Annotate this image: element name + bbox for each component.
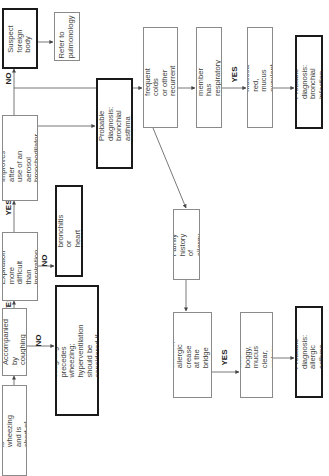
node-improves-after-bronchodilator: Improves after use of an aerosol broncho… xyxy=(2,115,38,201)
node-suspect-bronchitis-coughing: Suspect bronchitis if coughing precedes … xyxy=(55,285,99,416)
node-expiration-difficult: Expiration more difficult than inspirati… xyxy=(2,232,38,301)
node-text: Suspect bronchitis if coughing precedes … xyxy=(55,324,99,377)
node-history-frequent-colds: History of frequent colds or other recur… xyxy=(143,27,178,128)
node-text: Accompanied by coughing xyxy=(2,319,27,365)
node-text: History of frequent colds or other recur… xyxy=(143,60,178,96)
node-accompanied-by-coughing: Accompanied by coughing xyxy=(2,308,27,376)
node-text: "My child is wheezing and is short of br… xyxy=(2,414,27,446)
node-text: Suspect foreign body xyxy=(7,25,33,52)
node-text: Allergic shiners, allergic crease at the… xyxy=(173,342,212,369)
node-dx-allergic-asthma: Probable diagnosis: allergic asthma xyxy=(295,306,323,398)
edge-label-family-infection-yes: YES xyxy=(230,66,239,82)
edge-label-coughing-no: NO xyxy=(34,335,43,347)
edge-label-allergic-shiners-yes: YES xyxy=(220,349,229,365)
node-text: Family member has respiratory infection xyxy=(196,60,222,96)
node-text: Expiration more difficult than inspirati… xyxy=(2,249,38,284)
node-family-history-allergy: Family history of allergy xyxy=(173,209,200,280)
node-refer-to-pulmonology: Refer to pulmonology xyxy=(54,12,80,61)
node-text: Probable diagnosis: bronchial infection xyxy=(295,65,323,99)
node-mucosa-red: Mucosa red, mucus purulent xyxy=(247,27,273,128)
node-allergic-shiners: Allergic shiners, allergic crease at the… xyxy=(173,312,212,398)
node-dx-bronchial-infection: Probable diagnosis: bronchial infection xyxy=(295,35,323,129)
edge-label-expiration-no: NO xyxy=(40,255,49,267)
node-dx-bronchial-asthma: Probable diagnosis: bronchial asthma xyxy=(96,78,133,169)
node-text: Refer to pulmonology xyxy=(58,15,75,58)
edge-label-improves-no: NO xyxy=(4,73,13,85)
flowchart-diagram: YES NO YES NO NO YES YES "My child is wh… xyxy=(0,0,329,476)
node-mucosa-pale: Mucosa pale and boggy, mucus clear, wate… xyxy=(240,312,273,398)
node-start-complaint: "My child is wheezing and is short of br… xyxy=(2,385,27,476)
node-text: Family history of allergy xyxy=(173,233,200,255)
node-text: Improves after use of an aerosol broncho… xyxy=(2,134,38,182)
node-family-member-infection: Family member has respiratory infection xyxy=(196,27,222,128)
node-text: Mucosa pale and boggy, mucus clear, wate… xyxy=(240,342,273,369)
node-suspect-foreign-body: Suspect foreign body xyxy=(2,8,38,69)
node-text: Suspect bronchitis or heart disease xyxy=(55,215,83,248)
edge-label-expiration-yes: YES xyxy=(4,199,13,215)
node-text: Probable diagnosis: bronchial asthma xyxy=(97,106,131,140)
node-suspect-bronchitis-heart: Suspect bronchitis or heart disease xyxy=(55,185,83,277)
node-text: Mucosa red, mucus purulent xyxy=(247,64,273,91)
node-text: Probable diagnosis: allergic asthma xyxy=(295,335,323,369)
